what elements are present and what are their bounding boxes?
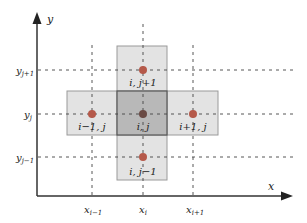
label-top: i, j+1 <box>129 77 156 88</box>
label-center: i, j <box>137 121 150 132</box>
x-tick-ip1: xi+1 <box>186 204 204 217</box>
node-right <box>189 110 197 118</box>
y-tick-labels: yj+1 yj yj−1 <box>15 65 34 165</box>
label-left: i−1, j <box>78 121 105 132</box>
node-top <box>139 66 147 74</box>
y-tick-jp1: yj+1 <box>15 65 34 78</box>
y-axis-arrow-icon <box>33 12 42 24</box>
node-bottom <box>139 153 147 161</box>
y-tick-jm1: yj−1 <box>15 152 34 165</box>
node-center <box>139 110 147 118</box>
label-bottom: i, j−1 <box>129 166 156 177</box>
stencil-diagram: y x i, j+1 i−1, j i, j i+1, j i, j−1 yj+… <box>0 0 307 223</box>
x-axis-label: x <box>268 180 275 193</box>
y-tick-j: yj <box>23 109 33 122</box>
y-axis-label: y <box>46 13 54 26</box>
x-tick-labels: xi−1 xi xi+1 <box>84 204 204 217</box>
node-left <box>88 110 96 118</box>
label-right: i+1, j <box>179 121 206 132</box>
x-tick-im1: xi−1 <box>84 204 102 217</box>
x-axis-arrow-icon <box>281 192 293 201</box>
x-tick-i: xi <box>139 204 147 217</box>
